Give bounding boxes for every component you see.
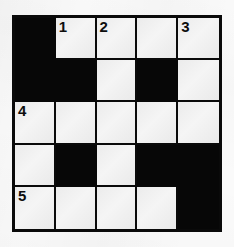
crossword-block <box>178 145 219 187</box>
cell-number: 3 <box>181 18 189 35</box>
crossword-cell[interactable] <box>137 18 178 60</box>
crossword-cell[interactable] <box>97 60 138 102</box>
crossword-cell[interactable] <box>137 187 178 229</box>
crossword-block <box>56 145 97 187</box>
crossword-cell[interactable]: 5 <box>15 187 56 229</box>
crossword-cell[interactable] <box>178 60 219 102</box>
crossword-block <box>56 60 97 102</box>
crossword-block <box>137 60 178 102</box>
crossword-cell[interactable]: 3 <box>178 18 219 60</box>
crossword-cell[interactable] <box>97 102 138 144</box>
crossword-block <box>178 187 219 229</box>
crossword-cell[interactable] <box>178 102 219 144</box>
crossword-cell[interactable]: 4 <box>15 102 56 144</box>
cell-number: 1 <box>59 18 67 35</box>
crossword-cell[interactable] <box>56 187 97 229</box>
cell-number: 2 <box>100 18 108 35</box>
crossword-cell[interactable] <box>137 102 178 144</box>
crossword-block <box>15 18 56 60</box>
crossword-cell[interactable]: 2 <box>97 18 138 60</box>
cell-number: 4 <box>18 102 26 119</box>
crossword-cell[interactable] <box>56 102 97 144</box>
crossword-cell[interactable] <box>97 187 138 229</box>
crossword-block <box>137 145 178 187</box>
crossword-block <box>15 60 56 102</box>
cell-number: 5 <box>18 187 26 204</box>
crossword-cell[interactable] <box>15 145 56 187</box>
crossword-grid[interactable]: 12345 <box>12 15 222 232</box>
crossword-cell[interactable]: 1 <box>56 18 97 60</box>
crossword-cell[interactable] <box>97 145 138 187</box>
